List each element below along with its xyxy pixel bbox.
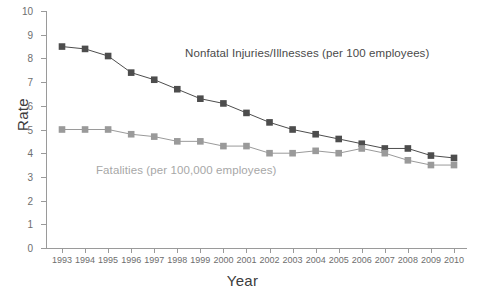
x-tick bbox=[270, 248, 271, 253]
data-point-marker bbox=[358, 145, 365, 152]
data-point-marker bbox=[197, 95, 204, 102]
x-tick bbox=[293, 248, 294, 253]
data-point-marker bbox=[382, 150, 389, 157]
x-tick bbox=[339, 248, 340, 253]
x-tick bbox=[246, 248, 247, 253]
data-point-marker bbox=[312, 131, 319, 138]
x-tick-label: 1997 bbox=[144, 255, 164, 265]
series-fatalities bbox=[59, 126, 458, 168]
data-point-marker bbox=[451, 162, 458, 169]
data-point-marker bbox=[220, 100, 227, 107]
x-tick bbox=[62, 248, 63, 253]
data-point-marker bbox=[128, 131, 135, 138]
y-tick-label: 6 bbox=[27, 106, 33, 107]
data-point-marker bbox=[59, 126, 66, 133]
x-tick-label: 2003 bbox=[283, 255, 303, 265]
data-point-marker bbox=[266, 119, 273, 126]
data-point-marker bbox=[151, 133, 158, 140]
x-tick-label: 2007 bbox=[375, 255, 395, 265]
y-tick-label: 10 bbox=[22, 11, 33, 12]
annotation-nonfatal-label: Nonfatal Injuries/Illnesses (per 100 emp… bbox=[185, 47, 429, 59]
y-tick-label: 8 bbox=[27, 58, 33, 59]
x-tick-label: 2001 bbox=[236, 255, 256, 265]
data-point-marker bbox=[243, 110, 250, 117]
series-line bbox=[62, 130, 454, 166]
series-nonfatal bbox=[59, 43, 458, 161]
data-point-marker bbox=[128, 69, 135, 76]
x-tick bbox=[177, 248, 178, 253]
data-point-marker bbox=[151, 76, 158, 83]
x-tick-label: 1999 bbox=[190, 255, 210, 265]
x-tick bbox=[408, 248, 409, 253]
data-point-marker bbox=[266, 150, 273, 157]
x-tick-label: 1993 bbox=[52, 255, 72, 265]
x-tick bbox=[85, 248, 86, 253]
data-point-marker bbox=[82, 46, 89, 53]
data-point-marker bbox=[428, 152, 435, 159]
x-tick-label: 1998 bbox=[167, 255, 187, 265]
y-tick-label: 7 bbox=[27, 82, 33, 83]
chart-container: Rate Year 012345678910 19931994199519961… bbox=[0, 0, 485, 300]
data-point-marker bbox=[289, 150, 296, 157]
x-tick bbox=[385, 248, 386, 253]
x-tick-label: 2009 bbox=[421, 255, 441, 265]
x-tick bbox=[223, 248, 224, 253]
x-tick-label: 2000 bbox=[213, 255, 233, 265]
data-point-marker bbox=[59, 43, 66, 50]
y-tick-label: 3 bbox=[27, 177, 33, 178]
data-point-marker bbox=[105, 53, 112, 60]
annotation-fatalities-label: Fatalities (per 100,000 employees) bbox=[96, 164, 276, 176]
x-axis-title: Year bbox=[0, 272, 485, 289]
data-point-marker bbox=[220, 143, 227, 150]
series-line bbox=[62, 47, 454, 158]
x-tick bbox=[431, 248, 432, 253]
y-tick-label: 9 bbox=[27, 35, 33, 36]
y-tick-label: 5 bbox=[27, 130, 33, 131]
y-axis-title: Rate bbox=[14, 85, 31, 145]
x-tick-label: 1994 bbox=[75, 255, 95, 265]
x-tick-label: 2010 bbox=[444, 255, 464, 265]
data-point-marker bbox=[405, 157, 412, 164]
x-tick-label: 2008 bbox=[398, 255, 418, 265]
x-tick bbox=[131, 248, 132, 253]
data-point-marker bbox=[174, 86, 181, 93]
x-tick-label: 1995 bbox=[98, 255, 118, 265]
x-tick-label: 2006 bbox=[352, 255, 372, 265]
x-tick bbox=[454, 248, 455, 253]
x-tick bbox=[154, 248, 155, 253]
y-tick-label: 4 bbox=[27, 153, 33, 154]
x-tick bbox=[200, 248, 201, 253]
data-point-marker bbox=[405, 145, 412, 152]
data-point-marker bbox=[82, 126, 89, 133]
data-point-marker bbox=[243, 143, 250, 150]
data-point-marker bbox=[105, 126, 112, 133]
data-point-marker bbox=[312, 148, 319, 155]
x-tick-label: 2002 bbox=[260, 255, 280, 265]
y-tick: 0 bbox=[41, 248, 46, 249]
x-tick-label: 2004 bbox=[306, 255, 326, 265]
data-point-marker bbox=[451, 155, 458, 162]
x-tick bbox=[316, 248, 317, 253]
data-point-marker bbox=[335, 150, 342, 157]
data-point-marker bbox=[428, 162, 435, 169]
y-tick-label: 0 bbox=[27, 248, 33, 249]
data-point-marker bbox=[174, 138, 181, 145]
x-axis-line bbox=[46, 248, 467, 249]
x-tick-label: 2005 bbox=[329, 255, 349, 265]
x-tick bbox=[362, 248, 363, 253]
data-point-marker bbox=[197, 138, 204, 145]
x-tick bbox=[108, 248, 109, 253]
data-point-marker bbox=[335, 136, 342, 143]
y-tick-label: 1 bbox=[27, 224, 33, 225]
data-point-marker bbox=[289, 126, 296, 133]
y-tick-label: 2 bbox=[27, 201, 33, 202]
x-tick-label: 1996 bbox=[121, 255, 141, 265]
